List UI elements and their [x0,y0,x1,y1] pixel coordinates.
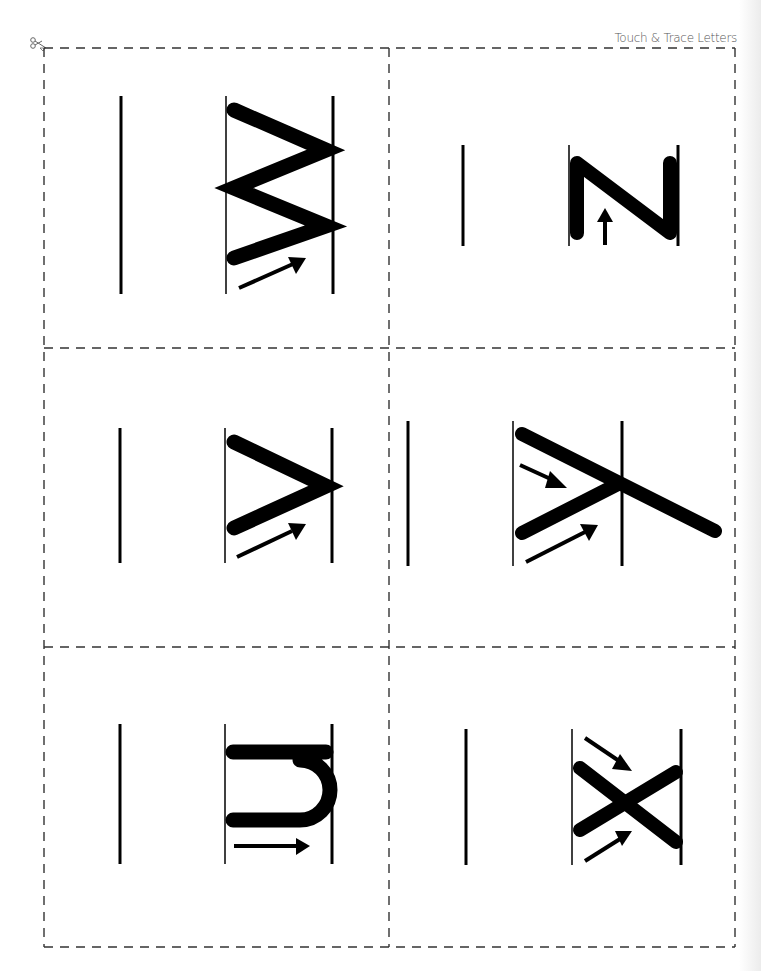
card-rotated-u [120,724,332,864]
arrow-down-right-icon [520,465,567,488]
card-greater-than [120,428,332,563]
card-sheet [0,0,761,971]
card-rotated-y [408,421,715,566]
arrow-down-right-icon [585,738,632,771]
arrow-right-icon [234,838,310,855]
arrow-up-icon [597,208,613,245]
card-rotated-n [463,145,678,246]
card-x-cross [466,729,681,865]
arrow-up-right-icon [239,257,306,288]
arrow-up-right-icon [585,831,632,861]
card-zigzag [121,96,333,294]
